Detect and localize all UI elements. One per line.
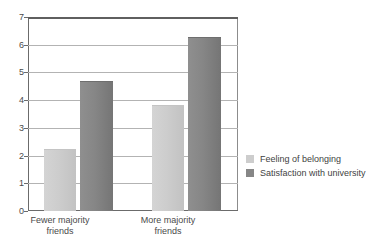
x-axis-label-line: friends — [113, 226, 223, 237]
y-tick-label: 7 — [2, 13, 24, 22]
plot-area — [28, 17, 238, 211]
bar-satisfaction-more — [188, 37, 221, 211]
bar-belonging-fewer — [44, 149, 76, 211]
x-axis-label-line: More majority — [113, 215, 223, 226]
legend-swatch-icon — [246, 155, 254, 163]
y-tick-label: 5 — [2, 68, 24, 77]
y-tick-mark — [24, 211, 28, 212]
legend-item-satisfaction: Satisfaction with university — [246, 166, 366, 180]
x-axis-label-line: friends — [5, 226, 115, 237]
y-axis: 7 6 5 4 3 2 1 0 — [0, 17, 24, 211]
x-axis-label-group-2: More majority friends — [113, 215, 223, 237]
plot-top-border — [28, 17, 238, 19]
legend: Feeling of belonging Satisfaction with u… — [246, 152, 366, 180]
y-tick-label: 2 — [2, 152, 24, 161]
y-axis-line — [28, 17, 29, 211]
y-tick-label: 4 — [2, 96, 24, 105]
x-axis-label-group-1: Fewer majority friends — [5, 215, 115, 237]
legend-swatch-icon — [246, 169, 254, 177]
bar-satisfaction-fewer — [80, 81, 113, 211]
y-tick-label: 3 — [2, 124, 24, 133]
plot-right-border — [237, 17, 238, 211]
legend-label: Feeling of belonging — [260, 154, 341, 164]
bar-belonging-more — [152, 105, 184, 211]
y-tick-label: 1 — [2, 179, 24, 188]
legend-item-belonging: Feeling of belonging — [246, 152, 366, 166]
y-tick-label: 6 — [2, 41, 24, 50]
x-axis-label-line: Fewer majority — [5, 215, 115, 226]
legend-label: Satisfaction with university — [260, 168, 366, 178]
bar-chart: 7 6 5 4 3 2 1 0 — [0, 0, 379, 249]
